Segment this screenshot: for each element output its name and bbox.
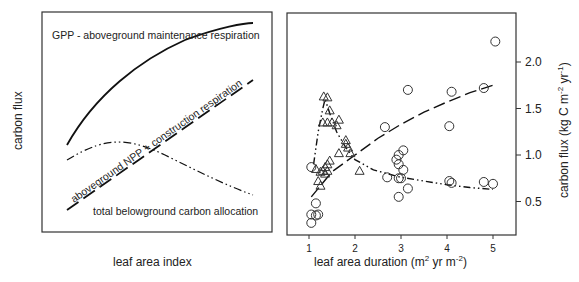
circle-marker (397, 174, 406, 183)
right-y-axis-label: carbon flux (kg C m-2 yr-1) (556, 62, 571, 198)
y-tick-label: 1.5 (525, 102, 542, 116)
x-tick-label: 1 (306, 243, 312, 254)
circle-marker (491, 37, 500, 46)
y-axis-ticks: 0.51.01.52.0 (516, 55, 542, 209)
left-panel: GPP - aboveground maintenance respiratio… (11, 12, 272, 269)
circle-marker (394, 192, 403, 201)
right-x-axis-label: leaf area duration (m2 yr m-2) (314, 254, 467, 269)
triangle-marker (323, 118, 332, 126)
x-tick-label: 4 (444, 243, 450, 254)
dashdot-fit-line (314, 99, 493, 189)
figure: GPP - aboveground maintenance respiratio… (0, 0, 579, 282)
x-tick-label: 3 (398, 243, 404, 254)
circle-marker (403, 85, 412, 94)
y-tick-label: 0.5 (525, 195, 542, 209)
circle-marker (445, 122, 454, 131)
left-y-axis-label: carbon flux (11, 91, 25, 150)
y-tick-label: 1.0 (525, 148, 542, 162)
circle-marker (380, 123, 389, 132)
data-markers (307, 37, 500, 227)
circle-marker (307, 218, 316, 227)
circle-marker (489, 179, 498, 188)
dashed-fit-line (311, 85, 493, 197)
circle-marker (399, 165, 408, 174)
right-plot-frame (287, 13, 516, 235)
circle-marker (383, 173, 392, 182)
triangle-marker (334, 149, 343, 157)
label-tbca: total belowground carbon allocation (93, 205, 258, 217)
circle-marker (479, 177, 488, 186)
circle-marker (447, 87, 456, 96)
triangle-marker (355, 166, 364, 174)
circle-marker (445, 177, 454, 186)
circle-marker (403, 184, 412, 193)
label-gpp: GPP - aboveground maintenance respiratio… (52, 29, 260, 41)
circle-marker (311, 199, 320, 208)
left-x-axis-label: leaf area index (113, 255, 192, 269)
circle-marker (447, 178, 456, 187)
right-panel: 12345 0.51.01.52.0 leaf area duration (m… (287, 13, 571, 269)
x-axis-ticks: 12345 (306, 235, 496, 254)
y-tick-label: 2.0 (525, 55, 542, 69)
circle-marker (394, 174, 403, 183)
fit-lines (311, 85, 493, 197)
x-tick-label: 5 (490, 243, 496, 254)
triangle-marker (332, 121, 341, 129)
label-npp: aboveground NPP + construction respirati… (68, 76, 244, 204)
x-tick-label: 2 (352, 243, 358, 254)
